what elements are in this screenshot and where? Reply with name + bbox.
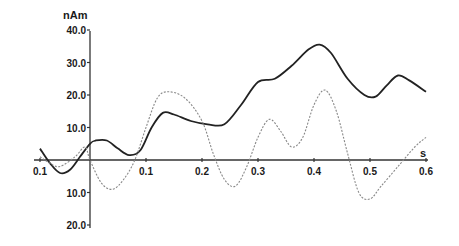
x-tick-label: 0.5 <box>363 166 377 177</box>
x-tick-label: 0.3 <box>251 166 265 177</box>
series-dashed-line <box>40 90 426 200</box>
y-tick-label: 10.0 <box>67 188 87 199</box>
y-ticks: 40.030.020.010.010.020.0 <box>67 25 90 231</box>
y-tick-label: 30.0 <box>67 58 87 69</box>
y-axis-unit-label: nAm <box>63 9 88 21</box>
x-tick-label: 0.1 <box>33 166 47 177</box>
y-tick-label: 20.0 <box>67 220 87 231</box>
line-chart: 40.030.020.010.010.020.0 0.10.10.20.30.4… <box>0 0 459 246</box>
series-solid-line <box>40 45 426 174</box>
y-tick-label: 20.0 <box>67 90 87 101</box>
y-tick-label: 10.0 <box>67 123 87 134</box>
axes <box>34 31 428 228</box>
x-tick-label: 0.6 <box>419 166 433 177</box>
x-tick-label: 0.1 <box>139 166 153 177</box>
x-tick-label: 0.4 <box>307 166 321 177</box>
x-axis-unit-label: s <box>420 147 426 159</box>
y-tick-label: 40.0 <box>67 25 87 36</box>
x-tick-label: 0.2 <box>195 166 209 177</box>
